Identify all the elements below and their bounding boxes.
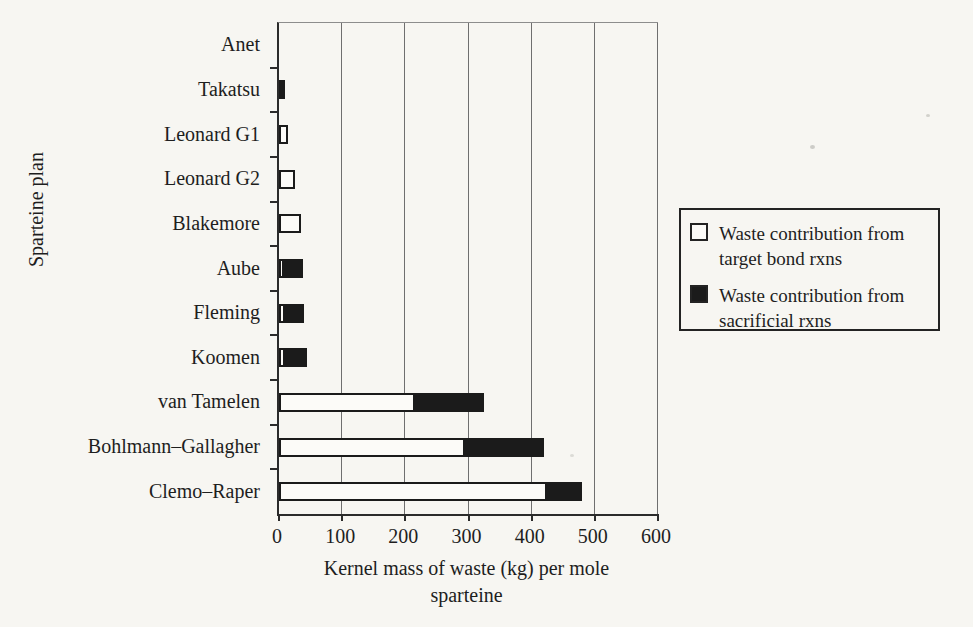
bar-sacrificial-segment-1 (279, 80, 285, 99)
x-tick-label-200: 200 (388, 524, 418, 548)
x-tick-label-100: 100 (325, 524, 355, 548)
y-axis-tick (270, 67, 277, 69)
x-axis-tick (341, 514, 343, 521)
x-axis-tick (468, 514, 470, 521)
category-label-0: Anet (0, 31, 260, 57)
category-label-6: Fleming (0, 299, 260, 325)
legend-item-sacrificial-label: Waste contribution from sacrificial rxns (719, 283, 904, 333)
scan-speck (570, 454, 574, 457)
bar-sacrificial-segment-6 (285, 304, 304, 323)
category-label-2: Leonard G1 (0, 121, 260, 147)
x-tick-labels: 0100200300400500600 (277, 524, 656, 550)
category-label-8: van Tamelen (0, 388, 260, 414)
scan-speck (926, 114, 930, 117)
x-axis-tick (278, 514, 280, 521)
category-label-5: Aube (0, 255, 260, 281)
x-axis-title-line1: Kernel mass of waste (kg) per mole (277, 555, 656, 582)
x-axis-tick (594, 514, 596, 521)
legend-item-sacrificial: Waste contribution from sacrificial rxns (690, 283, 930, 333)
legend-item-target: Waste contribution from target bond rxns (690, 221, 930, 271)
bar-sacrificial-segment-10 (547, 482, 582, 501)
y-axis-tick (270, 379, 277, 381)
category-label-10: Clemo–Raper (0, 478, 260, 504)
x-tick-label-300: 300 (452, 524, 482, 548)
category-label-4: Blakemore (0, 210, 260, 236)
bar-target-segment-10 (279, 482, 547, 501)
category-label-7: Koomen (0, 344, 260, 370)
x-axis-tick (531, 514, 533, 521)
x-tick-label-0: 0 (272, 524, 282, 548)
legend: Waste contribution from target bond rxns… (679, 208, 940, 331)
bar-target-segment-2 (279, 125, 288, 144)
legend-target-line1: Waste contribution from (719, 223, 904, 244)
y-axis-tick (270, 424, 277, 426)
bar-sacrificial-segment-8 (415, 393, 484, 412)
category-label-9: Bohlmann–Gallagher (0, 433, 260, 459)
y-axis-tick (270, 156, 277, 158)
x-axis-tick (404, 514, 406, 521)
legend-item-target-label: Waste contribution from target bond rxns (719, 221, 904, 271)
bar-sacrificial-segment-9 (465, 438, 544, 457)
x-tick-label-500: 500 (578, 524, 608, 548)
y-axis-tick (270, 334, 277, 336)
y-axis-tick (270, 111, 277, 113)
x-axis-title: Kernel mass of waste (kg) per mole spart… (277, 555, 656, 609)
category-label-3: Leonard G2 (0, 165, 260, 191)
plot-area (277, 22, 658, 516)
black-square-swatch-icon (690, 285, 708, 303)
bar-target-segment-9 (279, 438, 465, 457)
x-axis-title-line2: sparteine (277, 582, 656, 609)
x-tick-label-400: 400 (515, 524, 545, 548)
bar-sacrificial-segment-7 (285, 348, 307, 367)
bar-target-segment-8 (279, 393, 415, 412)
legend-target-line2: target bond rxns (719, 248, 842, 269)
legend-sacrificial-line1: Waste contribution from (719, 285, 904, 306)
gridline-600 (657, 23, 658, 514)
scan-speck (810, 145, 815, 149)
category-label-1: Takatsu (0, 76, 260, 102)
gridline-500 (594, 23, 595, 514)
y-axis-tick (270, 201, 277, 203)
y-axis-tick (270, 245, 277, 247)
white-square-swatch-icon (690, 223, 708, 241)
y-axis-tick (270, 290, 277, 292)
bar-sacrificial-segment-5 (284, 259, 303, 278)
bar-target-segment-3 (279, 170, 295, 189)
bar-target-segment-4 (279, 214, 301, 233)
category-labels: AnetTakatsuLeonard G1Leonard G2Blakemore… (0, 22, 268, 513)
legend-sacrificial-line2: sacrificial rxns (719, 310, 831, 331)
x-axis-tick (657, 514, 659, 521)
y-axis-tick (270, 468, 277, 470)
stacked-bar-chart-figure: Sparteine plan AnetTakatsuLeonard G1Leon… (0, 0, 973, 627)
x-tick-label-600: 600 (641, 524, 671, 548)
